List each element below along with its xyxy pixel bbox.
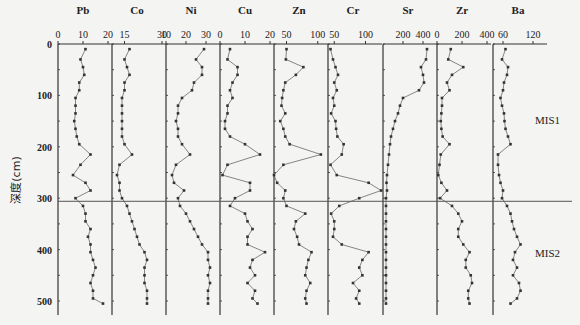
- x-tick-label: 50: [329, 29, 339, 40]
- data-point: [446, 81, 449, 84]
- y-tick-label: 300: [37, 193, 52, 204]
- data-point: [335, 174, 338, 177]
- data-point: [385, 235, 388, 238]
- data-point: [226, 58, 229, 61]
- data-point: [79, 163, 82, 166]
- data-point: [385, 228, 388, 231]
- data-point: [236, 66, 239, 69]
- x-tick-label: 30: [201, 29, 211, 40]
- data-point: [193, 228, 196, 231]
- data-point: [512, 259, 515, 262]
- data-point: [282, 89, 285, 92]
- data-point: [385, 197, 388, 200]
- data-point: [337, 74, 340, 77]
- x-tick-label: 10: [78, 29, 88, 40]
- data-point: [273, 174, 276, 177]
- data-point: [207, 274, 210, 277]
- data-point: [385, 282, 388, 285]
- data-point: [504, 128, 507, 131]
- data-point: [288, 143, 291, 146]
- data-point: [447, 58, 450, 61]
- data-point: [236, 74, 239, 77]
- data-point: [457, 228, 460, 231]
- data-point: [146, 289, 149, 292]
- series-line: [386, 49, 427, 304]
- data-point: [304, 274, 307, 277]
- data-point: [92, 274, 95, 277]
- data-point: [439, 120, 442, 123]
- data-point: [305, 289, 308, 292]
- data-point: [143, 266, 146, 269]
- data-point: [399, 104, 402, 107]
- data-point: [418, 89, 421, 92]
- data-point: [226, 104, 229, 107]
- panel-title: Cr: [347, 4, 360, 16]
- data-point: [438, 163, 441, 166]
- y-tick-label: 400: [37, 245, 52, 256]
- data-point: [423, 81, 426, 84]
- data-point: [385, 243, 388, 246]
- data-point: [254, 274, 257, 277]
- data-point: [385, 302, 388, 305]
- data-point: [94, 266, 97, 269]
- y-tick-label: 200: [37, 142, 52, 153]
- data-point: [133, 228, 136, 231]
- data-point: [74, 112, 77, 115]
- panel-title: Sr: [403, 4, 414, 16]
- data-point: [181, 97, 184, 100]
- data-point: [276, 181, 279, 184]
- data-point: [387, 163, 390, 166]
- data-point: [123, 58, 126, 61]
- data-point: [293, 228, 296, 231]
- data-point: [280, 104, 283, 107]
- panel-title: Ni: [186, 4, 197, 16]
- data-point: [502, 89, 505, 92]
- data-point: [191, 89, 194, 92]
- data-point: [385, 220, 388, 223]
- data-point: [385, 251, 388, 254]
- data-point: [352, 282, 355, 285]
- data-point: [193, 81, 196, 84]
- data-point: [123, 81, 126, 84]
- data-point: [146, 259, 149, 262]
- data-point: [519, 243, 522, 246]
- panel-co: Co1530: [112, 4, 167, 315]
- data-point: [497, 163, 500, 166]
- data-point: [498, 174, 501, 177]
- data-point: [84, 181, 87, 184]
- data-point: [506, 205, 509, 208]
- x-tick-label: 20: [103, 29, 113, 40]
- data-point: [177, 112, 180, 115]
- data-point: [171, 174, 174, 177]
- x-tick-label: 15: [120, 29, 130, 40]
- data-point: [226, 112, 229, 115]
- data-point: [467, 289, 470, 292]
- data-point: [440, 112, 443, 115]
- data-point: [102, 302, 105, 305]
- data-point: [335, 128, 338, 131]
- data-point: [385, 181, 388, 184]
- data-point: [519, 289, 522, 292]
- data-point: [388, 153, 391, 156]
- data-point: [385, 297, 388, 300]
- data-point: [74, 104, 77, 107]
- data-point: [201, 66, 204, 69]
- data-point: [332, 235, 335, 238]
- data-point: [181, 143, 184, 146]
- data-point: [221, 174, 224, 177]
- data-point: [342, 143, 345, 146]
- mis2-label: MIS2: [535, 247, 560, 259]
- data-point: [502, 189, 505, 192]
- data-point: [128, 74, 131, 77]
- data-point: [131, 220, 134, 223]
- data-point: [234, 197, 237, 200]
- panel-sr: Sr200400: [383, 4, 437, 315]
- data-point: [425, 58, 428, 61]
- data-point: [385, 212, 388, 215]
- data-point: [298, 243, 301, 246]
- data-point: [281, 97, 284, 100]
- data-point: [361, 259, 364, 262]
- data-point: [516, 266, 519, 269]
- data-point: [177, 104, 180, 107]
- data-point: [336, 135, 339, 138]
